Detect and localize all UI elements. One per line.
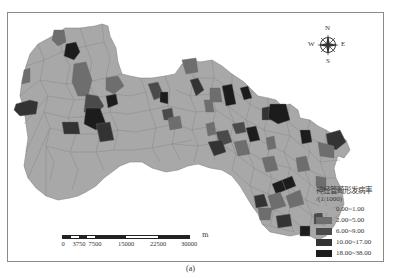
scale-tick: 0 — [61, 240, 64, 247]
legend-swatch — [316, 228, 332, 235]
scale-tick: 15000 — [118, 240, 134, 247]
legend: 神经管畸形发病率 /(1/1000) 0.00~1.00 2.00~5.00 6… — [316, 186, 386, 258]
compass-s: S — [326, 57, 330, 65]
legend-swatch — [316, 217, 332, 224]
legend-unit: /(1/1000) — [316, 195, 386, 203]
legend-item: 18.00~38.00 — [316, 248, 386, 258]
legend-swatch — [316, 206, 332, 213]
compass-e: E — [341, 40, 345, 48]
scale-tick: 3750 — [73, 240, 86, 247]
legend-item: 2.00~5.00 — [316, 215, 386, 225]
scale-ticks: 0 3750 7500 15000 22500 30000 — [62, 240, 262, 250]
compass-w: W — [308, 40, 315, 48]
scale-unit: m — [202, 231, 209, 239]
scale-tick: 7500 — [89, 240, 102, 247]
scale-bar-graphic — [62, 235, 190, 239]
north-arrow: N S W E — [308, 24, 348, 66]
legend-label: 18.00~38.00 — [336, 249, 371, 257]
legend-label: 10.00~17.00 — [336, 238, 371, 246]
compass-n: N — [325, 24, 330, 32]
legend-title: 神经管畸形发病率 — [316, 186, 386, 195]
legend-item: 0.00~1.00 — [316, 204, 386, 214]
scale-tick: 30000 — [181, 240, 197, 247]
legend-label: 0.00~1.00 — [336, 205, 364, 213]
legend-swatch — [316, 250, 332, 257]
legend-item: 10.00~17.00 — [316, 237, 386, 247]
figure-caption: (a) — [186, 264, 195, 273]
scale-bar: m 0 3750 7500 15000 22500 30000 — [62, 235, 262, 255]
legend-item: 6.00~9.00 — [316, 226, 386, 236]
legend-swatch — [316, 239, 332, 246]
legend-label: 6.00~9.00 — [336, 227, 364, 235]
scale-tick: 22500 — [150, 240, 166, 247]
legend-label: 2.00~5.00 — [336, 216, 364, 224]
